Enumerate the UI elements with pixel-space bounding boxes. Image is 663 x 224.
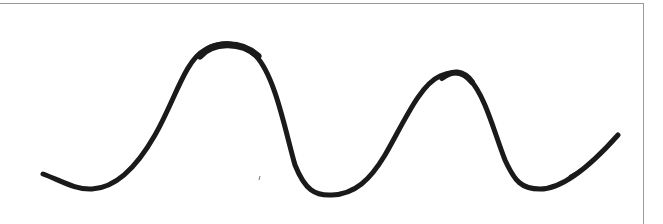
peak-2-thickening	[442, 72, 472, 82]
peak-1-thickening	[200, 45, 258, 56]
waveform-figure	[0, 0, 663, 224]
waveform-curve	[43, 44, 618, 195]
stray-mark	[259, 176, 260, 180]
